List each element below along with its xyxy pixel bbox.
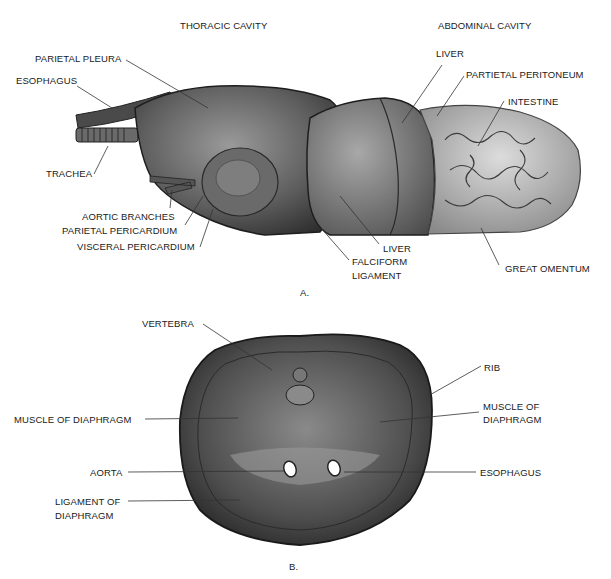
label-rib: RIB <box>484 362 500 373</box>
label-great-omentum: GREAT OMENTUM <box>505 263 590 274</box>
liver <box>307 98 435 235</box>
label-liver-top: LIVER <box>436 48 464 59</box>
abdominal-cavity-heading: ABDOMINAL CAVITY <box>438 20 531 31</box>
label-falciform-ligament-line1: FALCIFORM <box>352 256 407 267</box>
label-vertebra: VERTEBRA <box>142 318 194 329</box>
label-muscle-of-diaphragm-right-line1: MUSCLE OF <box>483 401 539 412</box>
label-ligament-of-diaphragm-line1: LIGAMENT OF <box>55 496 120 507</box>
label-trachea: TRACHEA <box>46 168 92 179</box>
trachea-tube <box>76 128 138 142</box>
label-liver-bottom: LIVER <box>383 243 411 254</box>
label-intestine: INTESTINE <box>508 96 559 107</box>
label-ligament-of-diaphragm-line2: DIAPHRAGM <box>55 510 113 521</box>
panel-label-a: A. <box>300 287 309 298</box>
label-parietal-pericardium: PARIETAL PERICARDIUM <box>62 225 177 236</box>
label-visceral-pericardium: VISCERAL PERICARDIUM <box>77 241 195 252</box>
label-aorta: AORTA <box>90 467 122 478</box>
diaphragm-outline <box>180 334 432 545</box>
vertebra <box>286 385 314 405</box>
abdominal-body <box>420 105 580 234</box>
label-muscle-of-diaphragm-left: MUSCLE OF DIAPHRAGM <box>14 414 132 425</box>
label-muscle-of-diaphragm-right-line2: DIAPHRAGM <box>483 414 541 425</box>
thoracic-cavity-heading: THORACIC CAVITY <box>180 20 267 31</box>
label-esophagus-a: ESOPHAGUS <box>16 75 77 86</box>
panel-label-b: B. <box>289 561 298 572</box>
label-esophagus-b: ESOPHAGUS <box>480 467 541 478</box>
label-partietal-peritoneum: PARTIETAL PERITONEUM <box>466 69 584 80</box>
label-aortic-branches: AORTIC BRANCHES <box>82 211 175 222</box>
label-parietal-pleura: PARIETAL PLEURA <box>35 53 121 64</box>
label-falciform-ligament-line2: LIGAMENT <box>352 270 401 281</box>
figure-b-drawing <box>180 334 432 545</box>
